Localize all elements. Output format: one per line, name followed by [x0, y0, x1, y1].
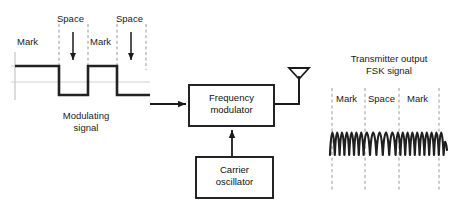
- antenna-icon: [289, 68, 309, 104]
- fsk-output-caption-line2: FSK signal: [330, 65, 448, 76]
- modulating-signal-caption-line1: Modulating: [42, 110, 130, 121]
- modulating-signal-caption-line2: signal: [42, 122, 130, 133]
- carrier-oscillator-label-line1: Carrier: [196, 164, 273, 176]
- fsk-transmitter-diagram: Mark Space Mark Space Modulating signal …: [0, 0, 458, 216]
- modulating-label-mark-1: Mark: [17, 36, 38, 47]
- modulator-to-antenna-line: [274, 76, 299, 104]
- fsk-output-waveform: [330, 133, 447, 156]
- modulating-square-waveform: [15, 66, 150, 95]
- fsk-output-caption-line1: Transmitter output: [330, 53, 448, 64]
- fsk-label-mark-1: Mark: [336, 93, 357, 104]
- frequency-modulator-label-line1: Frequency: [189, 92, 274, 104]
- modulating-label-mark-2: Mark: [90, 36, 111, 47]
- modulating-signal-axes: [11, 52, 150, 100]
- fsk-label-space: Space: [368, 93, 395, 104]
- frequency-modulator-label-line2: modulator: [189, 104, 274, 116]
- modulating-bit-dividers: [59, 24, 146, 70]
- carrier-oscillator-label-line2: oscillator: [196, 176, 273, 188]
- modulating-label-space-2: Space: [116, 13, 143, 24]
- fsk-label-mark-2: Mark: [407, 93, 428, 104]
- modulating-label-space-1: Space: [57, 13, 84, 24]
